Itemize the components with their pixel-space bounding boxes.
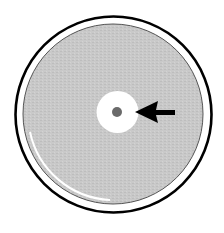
petri-dish-illustration (0, 0, 224, 233)
antibiotic-disk (112, 107, 122, 117)
diagram-canvas (0, 0, 224, 233)
